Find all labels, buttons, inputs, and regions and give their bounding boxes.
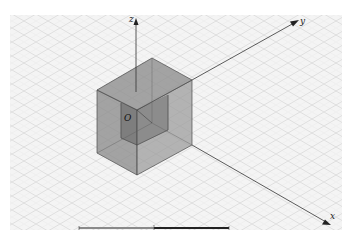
3d-viewport: z y x O [0,0,349,245]
x-axis-label: x [330,211,335,221]
z-axis-label: z [128,14,134,24]
y-axis-label: y [299,16,306,26]
origin-label: O [124,113,132,123]
